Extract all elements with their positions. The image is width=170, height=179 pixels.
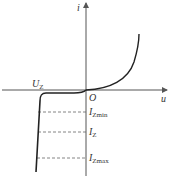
zener-characteristic-diagram: i u O UZ IZmin IZ IZmax bbox=[0, 0, 170, 179]
izmin-label: IZmin bbox=[88, 106, 108, 119]
uz-label: UZ bbox=[32, 78, 44, 91]
izmax-label: IZmax bbox=[88, 152, 109, 165]
u-axis-label: u bbox=[161, 93, 166, 104]
forward-curve bbox=[86, 34, 139, 90]
iz-label: IZ bbox=[88, 126, 97, 139]
reverse-breakdown-curve bbox=[36, 90, 86, 172]
i-axis-label: i bbox=[77, 2, 80, 13]
origin-label: O bbox=[89, 92, 96, 103]
